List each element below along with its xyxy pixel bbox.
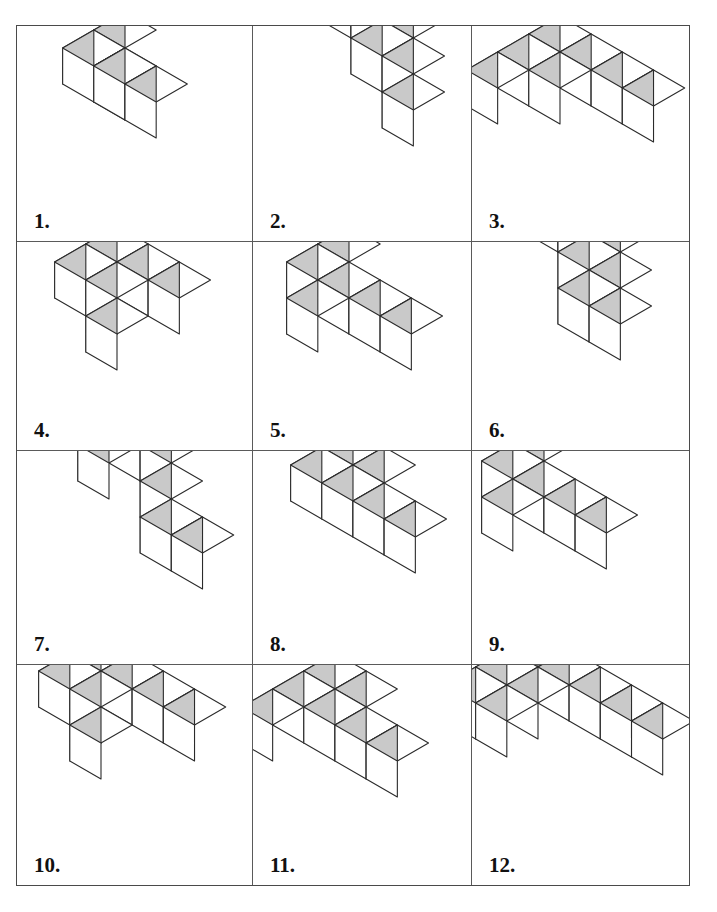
grid-cell-10[interactable]: 10. [17, 665, 253, 885]
figure-label-1: 1. [34, 211, 50, 232]
cube-group [253, 665, 429, 797]
grid-cell-4[interactable]: 4. [17, 242, 253, 451]
figure-label-9: 9. [489, 634, 505, 655]
grid-cell-5[interactable]: 5. [253, 242, 472, 451]
figure-label-2: 2. [270, 211, 286, 232]
worksheet-sheet: 1. 2. 3. 4. 5. 6. 7. 8. [0, 0, 717, 912]
figure-label-3: 3. [489, 211, 505, 232]
figure-10 [17, 665, 252, 885]
figure-label-8: 8. [270, 634, 286, 655]
cube-group [78, 451, 234, 589]
cube-group [482, 451, 638, 569]
figure-grid: 1. 2. 3. 4. 5. 6. 7. 8. [16, 25, 690, 886]
figure-7 [17, 451, 252, 664]
cube-group [55, 242, 211, 370]
figure-12 [472, 665, 689, 885]
figure-label-5: 5. [270, 420, 286, 441]
figure-label-6: 6. [489, 420, 505, 441]
grid-cell-2[interactable]: 2. [253, 26, 472, 242]
figure-1 [17, 26, 252, 241]
figure-label-10: 10. [34, 855, 60, 876]
cube-group [39, 665, 226, 779]
cube-group [320, 26, 445, 146]
figure-label-7: 7. [34, 634, 50, 655]
grid-cell-11[interactable]: 11. [253, 665, 472, 885]
grid-cell-9[interactable]: 9. [472, 451, 689, 665]
figure-label-12: 12. [489, 855, 515, 876]
cube-group [472, 665, 689, 775]
cube-group [472, 26, 685, 142]
grid-cell-3[interactable]: 3. [472, 26, 689, 242]
grid-cell-7[interactable]: 7. [17, 451, 253, 665]
figure-label-4: 4. [34, 420, 50, 441]
grid-cell-1[interactable]: 1. [17, 26, 253, 242]
grid-cell-12[interactable]: 12. [472, 665, 689, 885]
cube-group [287, 242, 443, 370]
figure-4 [17, 242, 252, 450]
cube-group [527, 242, 652, 360]
grid-cell-8[interactable]: 8. [253, 451, 472, 665]
figure-label-11: 11. [270, 855, 295, 876]
cube-group [63, 26, 188, 138]
figure-11 [253, 665, 471, 885]
cube-group [291, 451, 447, 573]
grid-cell-6[interactable]: 6. [472, 242, 689, 451]
